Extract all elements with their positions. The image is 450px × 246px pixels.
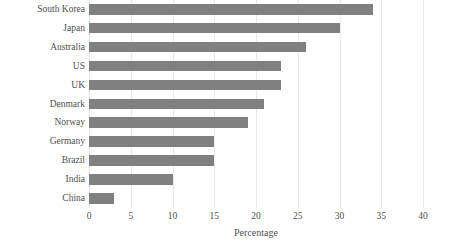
bar-row (89, 132, 423, 151)
x-tick-0: 0 (69, 210, 109, 222)
bar-brazil (89, 155, 214, 166)
bar-row (89, 189, 423, 208)
bar-us (89, 61, 281, 72)
bar-chart: South KoreaJapanAustraliaUSUKDenmarkNorw… (0, 0, 450, 246)
category-label-brazil: Brazil (0, 155, 85, 166)
bar-row (89, 0, 423, 19)
category-label-uk: UK (0, 80, 85, 91)
category-label-germany: Germany (0, 136, 85, 147)
bar-norway (89, 117, 248, 128)
category-label-norway: Norway (0, 117, 85, 128)
bar-uk (89, 80, 281, 91)
plot-area (89, 0, 423, 208)
bar-row (89, 151, 423, 170)
bar-row (89, 38, 423, 57)
bar-row (89, 113, 423, 132)
category-label-us: US (0, 61, 85, 72)
category-label-india: India (0, 174, 85, 185)
bar-germany (89, 136, 214, 147)
x-tick-5: 5 (111, 210, 151, 222)
bar-denmark (89, 99, 264, 110)
x-axis-tick-labels: 0510152025303540 (0, 208, 450, 224)
bar-china (89, 193, 114, 204)
bar-australia (89, 42, 306, 53)
x-tick-40: 40 (403, 210, 443, 222)
category-label-south-korea: South Korea (0, 4, 85, 15)
category-label-japan: Japan (0, 23, 85, 34)
bar-row (89, 19, 423, 38)
x-tick-30: 30 (320, 210, 360, 222)
category-label-australia: Australia (0, 42, 85, 53)
bar-india (89, 174, 173, 185)
bar-south-korea (89, 4, 373, 15)
x-tick-10: 10 (153, 210, 193, 222)
x-axis-title: Percentage (89, 226, 423, 239)
x-tick-20: 20 (236, 210, 276, 222)
bar-row (89, 95, 423, 114)
bar-row (89, 76, 423, 95)
bar-row (89, 170, 423, 189)
category-label-china: China (0, 193, 85, 204)
category-label-denmark: Denmark (0, 99, 85, 110)
x-tick-25: 25 (278, 210, 318, 222)
bar-row (89, 57, 423, 76)
bar-japan (89, 23, 340, 34)
x-tick-15: 15 (194, 210, 234, 222)
x-tick-35: 35 (361, 210, 401, 222)
category-axis: South KoreaJapanAustraliaUSUKDenmarkNorw… (0, 0, 85, 208)
gridline-40 (423, 0, 424, 208)
